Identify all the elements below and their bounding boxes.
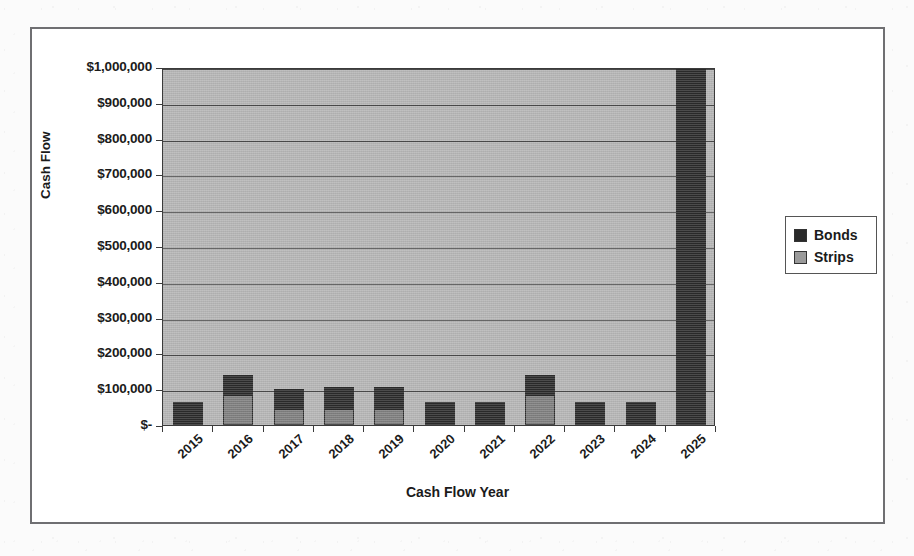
- x-axis-tick-label: 2025: [677, 431, 709, 461]
- bar-segment-strips[interactable]: [525, 395, 555, 425]
- bar-column[interactable]: [223, 375, 253, 425]
- bar-segment-bonds[interactable]: [575, 402, 605, 425]
- bar-column[interactable]: [525, 375, 555, 425]
- y-axis-tick-label: $400,000: [32, 274, 152, 289]
- bar-column[interactable]: [626, 402, 656, 425]
- bar-column[interactable]: [374, 387, 404, 425]
- x-axis-tick-label: 2018: [325, 431, 357, 461]
- gridline: [163, 141, 714, 142]
- legend-label: Strips: [814, 249, 854, 265]
- x-axis-tick-label: 2017: [275, 431, 307, 461]
- y-axis-tick-label: $-: [32, 417, 152, 432]
- bar-column[interactable]: [575, 402, 605, 425]
- bar-segment-bonds[interactable]: [676, 68, 706, 425]
- plot-area: [162, 68, 715, 426]
- x-axis-tick-label: 2022: [526, 431, 558, 461]
- gridline: [163, 320, 714, 321]
- y-axis-tick-label: $100,000: [32, 381, 152, 396]
- x-axis-tick-mark: [263, 426, 264, 432]
- x-axis-tick-mark: [614, 426, 615, 432]
- x-axis-tick-mark: [313, 426, 314, 432]
- bar-segment-bonds[interactable]: [475, 402, 505, 425]
- bar-column[interactable]: [676, 68, 706, 425]
- x-axis-tick-label: 2020: [426, 431, 458, 461]
- bar-column[interactable]: [425, 402, 455, 425]
- y-axis-tick-label: $500,000: [32, 238, 152, 253]
- x-axis-tick-label: 2024: [627, 431, 659, 461]
- bar-column[interactable]: [173, 402, 203, 425]
- y-axis-tick-label: $1,000,000: [32, 59, 152, 74]
- bar-column[interactable]: [274, 389, 304, 425]
- x-axis-tick-mark: [363, 426, 364, 432]
- y-axis-tick-label: $900,000: [32, 95, 152, 110]
- bar-segment-strips[interactable]: [274, 409, 304, 425]
- chart-frame: Cash Flow $1,000,000$900,000$800,000$700…: [30, 27, 885, 524]
- y-axis-title: Cash Flow: [38, 179, 53, 199]
- gridline: [163, 355, 714, 356]
- y-axis-tick-label: $800,000: [32, 131, 152, 146]
- x-axis-tick-label: 2016: [225, 431, 257, 461]
- x-axis-tick-mark: [464, 426, 465, 432]
- x-axis-tick-mark: [715, 426, 716, 432]
- gridline: [163, 212, 714, 213]
- bar-segment-bonds[interactable]: [374, 387, 404, 408]
- bar-column[interactable]: [324, 387, 354, 425]
- x-axis-tick-label: 2021: [476, 431, 508, 461]
- bar-segment-strips[interactable]: [223, 395, 253, 425]
- x-axis-title: Cash Flow Year: [32, 484, 883, 500]
- gridline: [163, 176, 714, 177]
- y-axis-tick-label: $600,000: [32, 202, 152, 217]
- y-axis-tick-label: $200,000: [32, 345, 152, 360]
- y-axis-tick-label: $700,000: [32, 166, 152, 181]
- gridline: [163, 284, 714, 285]
- y-axis-tick-label: $300,000: [32, 310, 152, 325]
- legend-swatch-bonds: [794, 229, 807, 242]
- chart-legend: BondsStrips: [785, 216, 877, 274]
- x-axis-tick-mark: [212, 426, 213, 432]
- legend-swatch-strips: [794, 251, 807, 264]
- legend-item[interactable]: Bonds: [794, 227, 868, 243]
- bar-segment-strips[interactable]: [374, 409, 404, 425]
- gridline: [163, 105, 714, 106]
- bar-segment-bonds[interactable]: [274, 389, 304, 409]
- x-axis-tick-label: 2019: [376, 431, 408, 461]
- x-axis-tick-label: 2015: [175, 431, 207, 461]
- x-axis-tick-mark: [514, 426, 515, 432]
- bar-segment-bonds[interactable]: [525, 375, 555, 395]
- bar-column[interactable]: [475, 402, 505, 425]
- bar-segment-bonds[interactable]: [223, 375, 253, 395]
- bar-segment-bonds[interactable]: [173, 402, 203, 425]
- x-axis-tick-mark: [564, 426, 565, 432]
- bar-segment-bonds[interactable]: [425, 402, 455, 425]
- x-axis-tick-mark: [162, 426, 163, 432]
- bar-segment-bonds[interactable]: [626, 402, 656, 425]
- legend-item[interactable]: Strips: [794, 249, 868, 265]
- gridline: [163, 69, 714, 70]
- gridline: [163, 248, 714, 249]
- x-axis-tick-mark: [413, 426, 414, 432]
- legend-label: Bonds: [814, 227, 858, 243]
- x-axis-tick-mark: [665, 426, 666, 432]
- bar-segment-bonds[interactable]: [324, 387, 354, 408]
- bar-segment-strips[interactable]: [324, 409, 354, 425]
- chart-canvas: Cash Flow $1,000,000$900,000$800,000$700…: [32, 29, 883, 522]
- x-axis-tick-label: 2023: [577, 431, 609, 461]
